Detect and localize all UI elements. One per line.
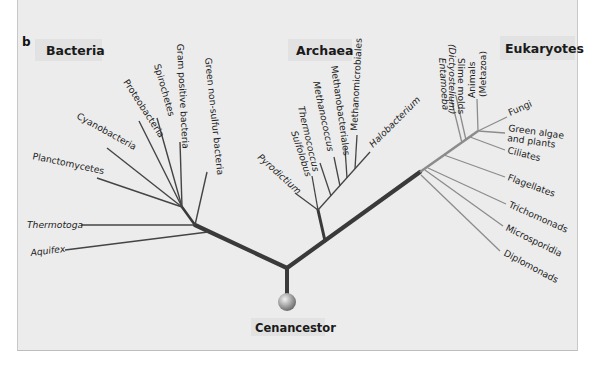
domain-label-bacteria: Bacteria (35, 39, 105, 61)
taxon-label: Pyrodictium (256, 151, 304, 196)
svg-text:Archaea: Archaea (296, 43, 354, 58)
taxon-label: (Metazoa) (477, 51, 488, 97)
svg-text:Bacteria: Bacteria (46, 43, 105, 58)
domain-label-archaea: Archaea (288, 39, 354, 61)
taxon-label: Animals (466, 61, 477, 98)
panel-letter: b (22, 35, 31, 49)
cenancestor-node-icon (278, 293, 296, 311)
svg-text:Cenancestor: Cenancestor (255, 321, 336, 335)
taxon-label: Halobacterium (367, 94, 423, 150)
taxon-label: Cyanobacteria (75, 110, 139, 152)
taxon-label: Aquifex (29, 243, 66, 258)
eukaryote-branches (420, 96, 507, 251)
svg-text:Eukaryotes: Eukaryotes (505, 41, 584, 56)
eukaryote-labels: Entamoeba Slime molds (Dictyostelium) An… (437, 44, 570, 285)
taxon-label: Fungi (506, 98, 533, 118)
phylogenetic-tree: b Bacteria Archaea Eukaryotes Green non-… (0, 0, 595, 366)
taxon-label: Spirochetes (152, 63, 178, 118)
taxon-label: Flagellates (506, 172, 557, 199)
root-label: Cenancestor (251, 318, 336, 336)
taxon-label: Thermotoga (27, 219, 83, 230)
taxon-label: (Dictyostelium) (447, 44, 458, 114)
taxon-label: Planctomycetes (32, 150, 106, 176)
taxon-label: Gram positive bacteria (175, 44, 191, 150)
archaea-labels: Pyrodictium Sulfolobus Thermococcus Meth… (256, 38, 423, 197)
taxon-label: Green non-sulfur bacteria (203, 57, 226, 175)
domain-label-eukaryotes: Eukaryotes (500, 36, 584, 60)
